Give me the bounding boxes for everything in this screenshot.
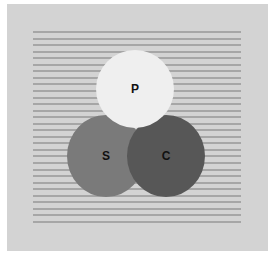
circle-p-label: P [131,82,139,96]
ruled-line [33,188,241,190]
ruled-line [33,208,241,210]
ruled-line [33,31,241,33]
ruled-line [33,221,241,223]
circle-c-label: C [162,149,171,163]
ruled-line [33,214,241,216]
ruled-line [33,38,241,40]
circle-s-label: S [102,149,110,163]
ruled-line [33,201,241,203]
circle-p: P [96,50,174,128]
ruled-line [33,44,241,46]
ruled-line [33,195,241,197]
